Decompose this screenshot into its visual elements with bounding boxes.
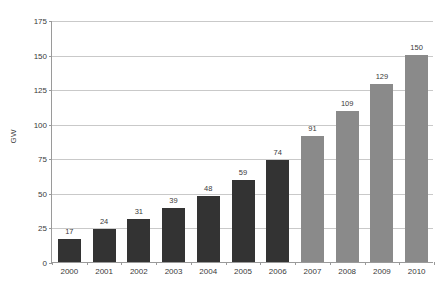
bar: 31 bbox=[127, 219, 150, 262]
bar: 129 bbox=[370, 84, 393, 262]
bar-value-label: 109 bbox=[341, 99, 354, 108]
y-tick-label: 125 bbox=[34, 86, 47, 95]
y-axis-title: GW bbox=[9, 130, 18, 144]
bar: 59 bbox=[232, 180, 255, 262]
x-tick-mark bbox=[52, 262, 53, 265]
bar: 109 bbox=[336, 111, 359, 262]
x-tick-mark bbox=[156, 262, 157, 265]
x-tick-label: 2006 bbox=[269, 267, 287, 276]
bar-value-label: 17 bbox=[65, 227, 73, 236]
x-tick-label: 2000 bbox=[60, 267, 78, 276]
bar: 91 bbox=[301, 136, 324, 262]
gridline bbox=[52, 21, 433, 22]
x-tick-mark bbox=[87, 262, 88, 265]
x-tick-label: 2008 bbox=[338, 267, 356, 276]
x-tick-label: 2010 bbox=[408, 267, 426, 276]
y-tick-mark bbox=[49, 159, 52, 160]
y-tick-mark bbox=[49, 194, 52, 195]
bar-value-label: 31 bbox=[135, 207, 143, 216]
bar: 150 bbox=[405, 55, 428, 262]
bar-value-label: 24 bbox=[100, 217, 108, 226]
y-tick-label: 75 bbox=[38, 155, 47, 164]
gridline bbox=[52, 56, 433, 57]
x-tick-mark bbox=[191, 262, 192, 265]
x-tick-mark bbox=[399, 262, 400, 265]
bar-value-label: 150 bbox=[410, 43, 423, 52]
x-tick-mark bbox=[226, 262, 227, 265]
x-tick-mark bbox=[295, 262, 296, 265]
bar-value-label: 129 bbox=[376, 72, 389, 81]
x-tick-label: 2004 bbox=[199, 267, 217, 276]
plot-area: 0255075100125150175 17243139485974911091… bbox=[51, 21, 433, 263]
y-tick-label: 175 bbox=[34, 17, 47, 26]
bar: 74 bbox=[266, 160, 289, 262]
bar-value-label: 91 bbox=[308, 124, 316, 133]
x-tick-label: 2001 bbox=[95, 267, 113, 276]
x-tick-label: 2005 bbox=[234, 267, 252, 276]
x-tick-label: 2002 bbox=[130, 267, 148, 276]
bar-chart: GW 0255075100125150175 17243139485974911… bbox=[0, 0, 442, 296]
x-tick-mark bbox=[365, 262, 366, 265]
y-tick-label: 25 bbox=[38, 224, 47, 233]
bar: 17 bbox=[58, 239, 81, 263]
bar: 39 bbox=[162, 208, 185, 262]
y-tick-label: 0 bbox=[43, 259, 47, 268]
y-tick-mark bbox=[49, 228, 52, 229]
y-tick-mark bbox=[49, 21, 52, 22]
y-tick-label: 50 bbox=[38, 189, 47, 198]
x-tick-label: 2003 bbox=[165, 267, 183, 276]
bar: 48 bbox=[197, 196, 220, 262]
x-tick-mark bbox=[330, 262, 331, 265]
y-tick-label: 100 bbox=[34, 120, 47, 129]
bar-value-label: 48 bbox=[204, 184, 212, 193]
x-tick-label: 2009 bbox=[373, 267, 391, 276]
y-tick-label: 150 bbox=[34, 51, 47, 60]
x-tick-mark bbox=[260, 262, 261, 265]
bar-value-label: 59 bbox=[239, 168, 247, 177]
y-tick-mark bbox=[49, 125, 52, 126]
x-tick-label: 2007 bbox=[304, 267, 322, 276]
y-tick-mark bbox=[49, 56, 52, 57]
y-tick-mark bbox=[49, 90, 52, 91]
x-tick-mark bbox=[121, 262, 122, 265]
bar-value-label: 39 bbox=[169, 196, 177, 205]
bar-value-label: 74 bbox=[274, 148, 282, 157]
bar: 24 bbox=[93, 229, 116, 262]
x-tick-mark bbox=[434, 262, 435, 265]
